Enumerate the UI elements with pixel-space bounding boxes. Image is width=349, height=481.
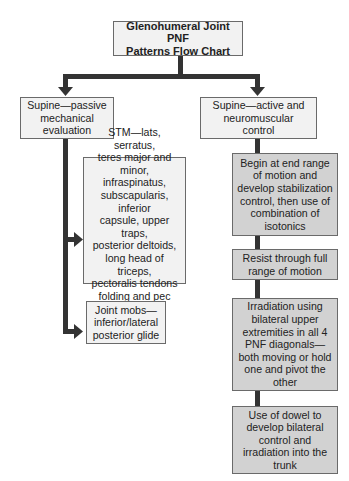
box-line: STM—lats, serratus, bbox=[87, 126, 182, 151]
box-line: develop bilateral bbox=[243, 421, 327, 434]
box-line: both moving or hold bbox=[238, 351, 331, 364]
box-line: posterior glide bbox=[93, 329, 160, 342]
box-line: Supine—active and bbox=[213, 99, 305, 112]
box-line: inferior/lateral bbox=[93, 316, 160, 329]
box-line: Supine—passive bbox=[27, 99, 107, 112]
box-line: extremities in all 4 bbox=[238, 326, 331, 339]
box-line: Irradiation using bbox=[238, 300, 331, 313]
box-line: capsule, upper traps, bbox=[87, 214, 182, 239]
box-line: infraspinatus, bbox=[87, 176, 182, 189]
box-line: develop stabilization bbox=[237, 182, 332, 195]
box-line: posterior deltoids, bbox=[87, 239, 182, 252]
chart-title-line: Patterns Flow Chart bbox=[117, 45, 239, 58]
box-line: irradiation into the bbox=[243, 446, 327, 459]
box-line: control bbox=[213, 124, 305, 137]
box-line: control and bbox=[243, 434, 327, 447]
box-line: isotonics bbox=[237, 220, 332, 233]
chart-title-line: Glenohumeral Joint PNF bbox=[117, 20, 239, 45]
box-line: subscapularis, inferior bbox=[87, 189, 182, 214]
begin-end-range-box: Begin at end range of motion and develop… bbox=[232, 153, 338, 236]
box-line: combination of bbox=[237, 207, 332, 220]
resist-full-range-box: Resist through full range of motion bbox=[232, 249, 338, 280]
box-line: one and pivot the bbox=[238, 363, 331, 376]
box-line: other bbox=[238, 376, 331, 389]
box-line: long head of triceps, bbox=[87, 252, 182, 277]
arrow-down-right-icon bbox=[250, 87, 265, 96]
box-line: neuromuscular bbox=[213, 112, 305, 125]
arrow-right-icon bbox=[74, 324, 83, 339]
supine-active-box: Supine—active and neuromuscular control bbox=[200, 97, 317, 139]
box-line: mechanical bbox=[27, 112, 107, 125]
box-line: control, then use of bbox=[237, 195, 332, 208]
box-line: trunk bbox=[243, 459, 327, 472]
box-line: Begin at end range bbox=[237, 157, 332, 170]
chart-title-box: Glenohumeral Joint PNF Patterns Flow Cha… bbox=[113, 21, 243, 56]
box-line: pectoralis tendons bbox=[87, 277, 182, 290]
box-line: PNF diagonals— bbox=[238, 338, 331, 351]
dowel-box: Use of dowel to develop bilateral contro… bbox=[232, 406, 338, 474]
arrow-down-left-icon bbox=[58, 87, 73, 96]
box-line: Resist through full bbox=[243, 252, 328, 265]
joint-mobs-box: Joint mobs— inferior/lateral posterior g… bbox=[86, 301, 166, 344]
box-line: Joint mobs— bbox=[93, 304, 160, 317]
stm-box: STM—lats, serratus, teres major and mino… bbox=[83, 157, 186, 284]
arrow-right-icon bbox=[74, 232, 83, 247]
box-line: bilateral upper bbox=[238, 313, 331, 326]
box-line: range of motion bbox=[243, 265, 328, 278]
box-line: teres major and minor, bbox=[87, 151, 182, 176]
box-line: Use of dowel to bbox=[243, 409, 327, 422]
box-line: of motion and bbox=[237, 169, 332, 182]
irradiation-box: Irradiation using bilateral upper extrem… bbox=[232, 298, 338, 391]
